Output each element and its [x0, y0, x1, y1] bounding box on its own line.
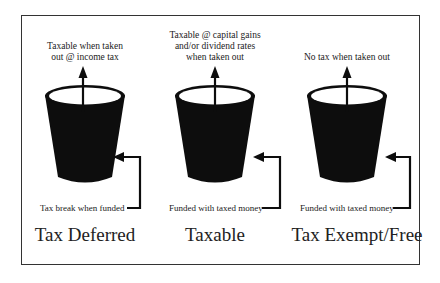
withdrawal-tax-label: Taxable when taken out @ income tax: [30, 41, 140, 63]
bucket-icon: [45, 85, 125, 183]
funding-label: Tax break when funded: [40, 203, 125, 213]
funding-arrow-icon: [113, 152, 140, 208]
account-type-title: Taxable: [140, 224, 290, 246]
funding-label: Funded with taxed money: [169, 203, 263, 213]
funding-label: Funded with taxed money: [300, 203, 394, 213]
account-type-title: Tax Deferred: [10, 224, 160, 246]
funding-arrow-icon: [385, 152, 410, 208]
funding-arrow-icon: [253, 152, 280, 208]
withdrawal-tax-label: No tax when taken out: [290, 52, 404, 63]
account-type-title: Tax Exempt/Free: [282, 224, 432, 246]
withdrawal-tax-label: Taxable @ capital gains and/or dividend …: [155, 30, 275, 63]
